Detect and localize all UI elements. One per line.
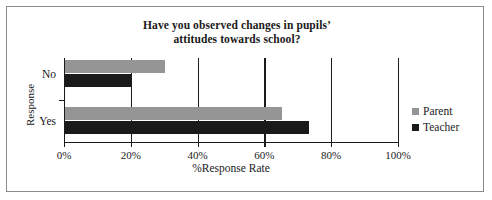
- bar-yes-teacher: [65, 121, 309, 134]
- y-tick-boundary: [59, 100, 64, 101]
- legend-swatch-teacher-icon: [412, 124, 419, 131]
- gridline-100: [398, 58, 399, 142]
- chart-title-line-1: Have you observed changes in pupils’: [47, 18, 427, 32]
- legend-label-teacher: Teacher: [423, 119, 459, 135]
- x-tick-100: [398, 142, 399, 147]
- x-axis-title: %Response Rate: [64, 162, 398, 174]
- x-tick-40: [198, 142, 199, 147]
- y-tick-label-no: No: [16, 68, 56, 80]
- x-axis-line: [64, 142, 398, 143]
- bar-no-teacher: [65, 74, 132, 87]
- y-tick-label-yes: Yes: [16, 115, 56, 127]
- chart-title-line-2: attitudes towards school?: [47, 32, 427, 46]
- x-tick-label-80: 80%: [301, 149, 361, 161]
- x-tick-60: [264, 142, 265, 147]
- legend-label-parent: Parent: [423, 103, 452, 119]
- plot-area: 0% 20% 40% 60% 80% 100% No Yes: [64, 58, 398, 142]
- x-tick-0: [64, 142, 65, 147]
- bar-no-parent: [65, 60, 165, 73]
- bar-yes-parent: [65, 107, 282, 120]
- legend-item-teacher: Teacher: [412, 119, 459, 135]
- chart-title: Have you observed changes in pupils’ att…: [47, 18, 427, 46]
- chart-figure: Have you observed changes in pupils’ att…: [6, 6, 484, 192]
- gridline-80: [331, 58, 332, 142]
- legend-swatch-parent-icon: [412, 108, 419, 115]
- x-tick-label-0: 0%: [34, 149, 94, 161]
- x-tick-label-40: 40%: [168, 149, 228, 161]
- x-tick-80: [331, 142, 332, 147]
- x-tick-label-20: 20%: [101, 149, 161, 161]
- x-tick-label-60: 60%: [234, 149, 294, 161]
- legend-item-parent: Parent: [412, 103, 459, 119]
- chart-legend: Parent Teacher: [412, 103, 459, 135]
- x-tick-20: [131, 142, 132, 147]
- x-tick-label-100: 100%: [368, 149, 428, 161]
